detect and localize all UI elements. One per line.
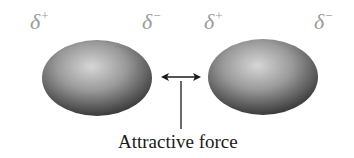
delta-symbol: δ (314, 9, 324, 34)
right-molecule-delta-minus: δ− (314, 9, 333, 33)
delta-symbol: δ (30, 9, 40, 34)
left-molecule-delta-minus: δ− (142, 9, 161, 33)
delta-symbol: δ (142, 9, 152, 34)
left-molecule (42, 40, 152, 116)
charge-sign: − (325, 8, 332, 23)
delta-symbol: δ (204, 9, 214, 34)
attractive-force-caption: Attractive force (118, 131, 238, 153)
right-molecule (208, 39, 318, 115)
right-molecule-delta-plus: δ+ (204, 9, 223, 33)
left-molecule-delta-plus: δ+ (30, 9, 49, 33)
charge-sign: + (215, 8, 222, 23)
charge-sign: − (153, 8, 160, 23)
charge-sign: + (41, 8, 48, 23)
